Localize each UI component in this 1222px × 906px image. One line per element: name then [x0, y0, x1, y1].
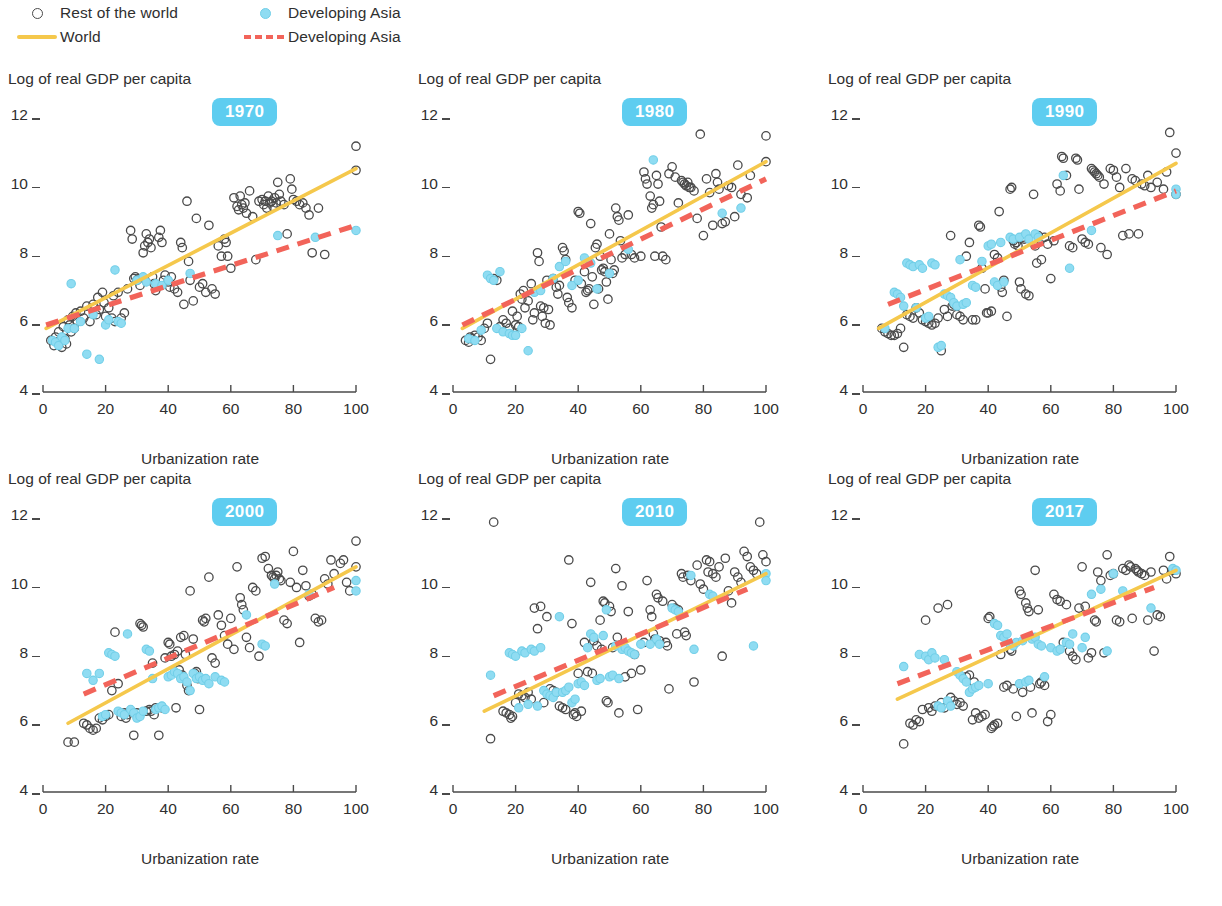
- data-point: [302, 582, 310, 590]
- data-point: [971, 283, 979, 291]
- data-point: [311, 233, 319, 241]
- y-tick-mark-10: [32, 587, 40, 589]
- data-point: [108, 686, 116, 694]
- x-tick-label-100: 100: [746, 400, 786, 418]
- panel-x-axis-label: Urbanization rate: [35, 450, 365, 468]
- data-point: [123, 630, 131, 638]
- data-point: [513, 312, 521, 320]
- data-point: [1000, 278, 1008, 286]
- y-tick-label-8: 8: [2, 244, 28, 262]
- scatter-panel-2010: Log of real GDP per capita20101210864020…: [410, 470, 810, 870]
- data-point: [352, 576, 360, 584]
- data-point: [161, 705, 169, 713]
- y-tick-mark-8: [32, 256, 40, 258]
- data-point: [934, 604, 942, 612]
- data-point: [186, 686, 194, 694]
- data-point: [1081, 633, 1089, 641]
- data-point: [1087, 226, 1095, 234]
- data-point: [561, 257, 569, 265]
- x-tick-label-60: 60: [211, 800, 251, 818]
- data-point: [1159, 185, 1167, 193]
- data-point: [1069, 630, 1077, 638]
- data-point: [489, 276, 497, 284]
- data-point: [111, 652, 119, 660]
- data-point: [214, 611, 222, 619]
- data-point: [511, 331, 519, 339]
- data-point: [593, 285, 601, 293]
- data-point: [612, 204, 620, 212]
- data-point: [352, 537, 360, 545]
- y-tick-label-8: 8: [412, 244, 438, 262]
- series-developing-asia: [881, 171, 1180, 351]
- data-point: [1059, 171, 1067, 179]
- data-point: [1172, 149, 1180, 157]
- data-point: [978, 257, 986, 265]
- x-tick-label-0: 0: [843, 400, 883, 418]
- data-point: [1097, 576, 1105, 584]
- data-point: [223, 252, 231, 260]
- y-tick-label-12: 12: [2, 106, 28, 124]
- data-point: [943, 312, 951, 320]
- data-point: [596, 674, 604, 682]
- data-point: [292, 583, 300, 591]
- x-tick-label-80: 80: [273, 800, 313, 818]
- data-point: [668, 163, 676, 171]
- x-tick-label-0: 0: [843, 800, 883, 818]
- data-point: [1115, 183, 1123, 191]
- legend-item-developing-asia-line: Developing Asia: [242, 28, 401, 46]
- data-point: [205, 573, 213, 581]
- data-point: [546, 321, 554, 329]
- data-point: [946, 702, 954, 710]
- data-point: [1147, 604, 1155, 612]
- panel-x-axis-label: Urbanization rate: [445, 850, 775, 868]
- data-point: [1003, 630, 1011, 638]
- data-point: [518, 324, 526, 332]
- data-point: [674, 199, 682, 207]
- data-point: [308, 249, 316, 257]
- y-tick-label-8: 8: [2, 644, 28, 662]
- data-point: [352, 226, 360, 234]
- data-point: [327, 556, 335, 564]
- data-point: [486, 355, 494, 363]
- data-point: [596, 616, 604, 624]
- data-point: [177, 238, 185, 246]
- data-point: [1134, 230, 1142, 238]
- scatter-panel-1990: Log of real GDP per capita19901210864020…: [820, 70, 1220, 470]
- legend-label-developing-asia-line: Developing Asia: [288, 28, 401, 46]
- data-point: [583, 643, 591, 651]
- data-point: [1022, 599, 1030, 607]
- data-point: [261, 642, 269, 650]
- data-point: [186, 587, 194, 595]
- data-point: [712, 170, 720, 178]
- trendline-developing-asia: [897, 587, 1154, 683]
- series-developing-asia: [83, 576, 361, 722]
- y-tick-mark-8: [442, 256, 450, 258]
- x-tick-label-40: 40: [968, 800, 1008, 818]
- data-point: [563, 293, 571, 301]
- data-point: [590, 633, 598, 641]
- data-point: [295, 638, 303, 646]
- data-point: [995, 207, 1003, 215]
- data-point: [655, 640, 663, 648]
- data-point: [984, 680, 992, 688]
- trendline-developing-asia: [462, 179, 766, 325]
- data-point: [633, 705, 641, 713]
- data-point: [515, 704, 523, 712]
- x-tick-label-20: 20: [906, 800, 946, 818]
- y-tick-mark-10: [442, 187, 450, 189]
- data-point: [67, 280, 75, 288]
- x-tick-label-80: 80: [1093, 400, 1133, 418]
- x-tick-label-100: 100: [336, 400, 376, 418]
- data-point: [612, 564, 620, 572]
- data-point: [1047, 710, 1055, 718]
- data-point: [1166, 552, 1174, 560]
- series-rest-of-the-world: [461, 130, 770, 364]
- data-point: [590, 300, 598, 308]
- data-point: [1103, 551, 1111, 559]
- data-point: [189, 635, 197, 643]
- y-tick-mark-12: [32, 118, 40, 120]
- x-tick-label-40: 40: [148, 800, 188, 818]
- y-tick-label-10: 10: [412, 575, 438, 593]
- data-point: [105, 316, 113, 324]
- data-point: [1087, 590, 1095, 598]
